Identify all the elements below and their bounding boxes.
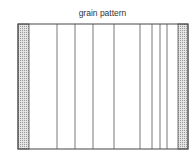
right-edge-stipple	[178, 24, 188, 149]
grain-pattern-diagram	[0, 0, 196, 161]
left-edge-stipple	[18, 24, 29, 149]
board-outline	[18, 24, 188, 149]
